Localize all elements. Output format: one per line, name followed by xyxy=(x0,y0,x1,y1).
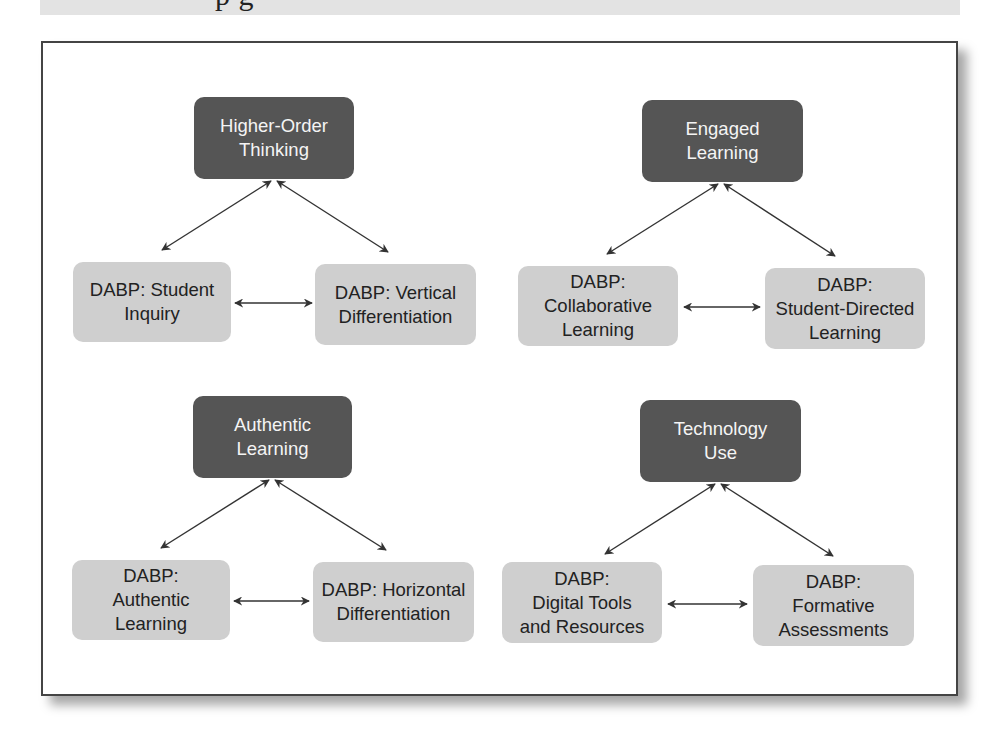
dabp-box-collaborative-learning: DABP: Collaborative Learning xyxy=(518,266,678,346)
core-box-authentic-learning: Authentic Learning xyxy=(193,396,352,478)
dabp-box-student-directed-learning: DABP: Student-Directed Learning xyxy=(765,268,925,349)
core-label: Authentic Learning xyxy=(234,413,311,461)
dabp-box-digital-tools: DABP: Digital Tools and Resources xyxy=(502,562,662,643)
dabp-label: DABP: Vertical Differentiation xyxy=(335,281,456,329)
clipped-heading-text: p g xyxy=(215,0,254,12)
dabp-label: DABP: Student Inquiry xyxy=(90,278,214,326)
dabp-box-student-inquiry: DABP: Student Inquiry xyxy=(73,262,231,342)
dabp-label: DABP: Authentic Learning xyxy=(112,564,189,636)
dabp-box-horizontal-differentiation: DABP: Horizontal Differentiation xyxy=(313,562,474,642)
core-box-engaged-learning: Engaged Learning xyxy=(642,100,803,182)
core-box-technology-use: Technology Use xyxy=(640,400,801,482)
core-label: Higher-Order Thinking xyxy=(220,114,328,162)
dabp-label: DABP: Student-Directed Learning xyxy=(776,273,915,345)
dabp-box-formative-assessments: DABP: Formative Assessments xyxy=(753,565,914,646)
dabp-label: DABP: Collaborative Learning xyxy=(544,270,652,342)
clipped-heading-band: p g xyxy=(40,0,960,15)
dabp-box-authentic-learning: DABP: Authentic Learning xyxy=(72,560,230,640)
dabp-label: DABP: Formative Assessments xyxy=(778,570,888,642)
core-label: Engaged Learning xyxy=(685,117,759,165)
dabp-label: DABP: Horizontal Differentiation xyxy=(322,578,466,626)
core-label: Technology Use xyxy=(674,417,768,465)
dabp-label: DABP: Digital Tools and Resources xyxy=(520,567,644,639)
core-box-higher-order-thinking: Higher-Order Thinking xyxy=(194,97,354,179)
dabp-box-vertical-differentiation: DABP: Vertical Differentiation xyxy=(315,264,476,345)
